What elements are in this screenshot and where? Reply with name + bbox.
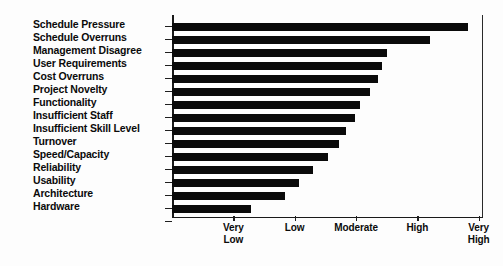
bar bbox=[172, 179, 299, 187]
category-label: Insufficient Skill Level bbox=[0, 122, 158, 135]
y-axis-tick bbox=[165, 195, 172, 196]
y-axis-tick bbox=[165, 52, 172, 53]
bar bbox=[172, 23, 468, 31]
bar bbox=[172, 49, 387, 57]
bar bbox=[172, 114, 355, 122]
x-axis-tick-label: Very High bbox=[468, 222, 490, 245]
x-axis-tick-label: High bbox=[406, 222, 428, 234]
y-axis-tick bbox=[165, 26, 172, 27]
category-label: Turnover bbox=[0, 135, 158, 148]
x-axis-tick bbox=[479, 216, 480, 221]
bar bbox=[172, 127, 346, 135]
category-label: Usability bbox=[0, 174, 158, 187]
bar bbox=[172, 192, 285, 200]
right-border-line bbox=[482, 15, 484, 218]
bar bbox=[172, 205, 251, 213]
bar bbox=[172, 101, 360, 109]
bar bbox=[172, 166, 313, 174]
category-label: Insufficient Staff bbox=[0, 109, 158, 122]
y-axis-tick bbox=[165, 78, 172, 79]
y-axis-tick bbox=[165, 91, 172, 92]
y-axis-tick bbox=[165, 143, 172, 144]
x-axis-tick-label: Moderate bbox=[334, 222, 378, 234]
bar-chart: Schedule PressureSchedule OverrunsManage… bbox=[0, 0, 503, 266]
category-label: Speed/Capacity bbox=[0, 148, 158, 161]
x-axis-tick bbox=[295, 216, 296, 221]
category-label: User Requirements bbox=[0, 57, 158, 70]
x-axis-tick-labels: Very LowLowModerateHighVery High bbox=[172, 222, 503, 262]
plot-area bbox=[172, 15, 483, 218]
category-label: Architecture bbox=[0, 187, 158, 200]
x-axis-tick bbox=[417, 216, 418, 221]
y-axis-tick bbox=[165, 182, 172, 183]
category-label: Schedule Pressure bbox=[0, 18, 158, 31]
y-axis-tick bbox=[165, 104, 172, 105]
bar bbox=[172, 153, 328, 161]
x-axis-tick-label: Very Low bbox=[223, 222, 244, 245]
y-axis-tick bbox=[165, 208, 172, 209]
category-label: Reliability bbox=[0, 161, 158, 174]
y-axis-tick bbox=[165, 221, 172, 222]
bar bbox=[172, 140, 339, 148]
bar bbox=[172, 36, 430, 44]
category-label: Project Novelty bbox=[0, 83, 158, 96]
category-label: Cost Overruns bbox=[0, 70, 158, 83]
x-axis-line bbox=[172, 217, 483, 219]
x-axis-tick-label: Low bbox=[285, 222, 305, 234]
bar bbox=[172, 75, 378, 83]
bar bbox=[172, 88, 370, 96]
y-axis-tick bbox=[165, 169, 172, 170]
category-axis-labels: Schedule PressureSchedule OverrunsManage… bbox=[0, 18, 158, 213]
y-axis-tick bbox=[165, 156, 172, 157]
bar bbox=[172, 62, 382, 70]
x-axis-tick bbox=[356, 216, 357, 221]
category-label: Management Disagree bbox=[0, 44, 158, 57]
category-label: Hardware bbox=[0, 200, 158, 213]
category-label: Schedule Overruns bbox=[0, 31, 158, 44]
y-axis-tick bbox=[165, 130, 172, 131]
category-label: Functionality bbox=[0, 96, 158, 109]
y-axis-tick bbox=[165, 65, 172, 66]
x-axis-tick bbox=[233, 216, 234, 221]
y-axis-tick bbox=[165, 39, 172, 40]
y-axis-tick bbox=[165, 117, 172, 118]
